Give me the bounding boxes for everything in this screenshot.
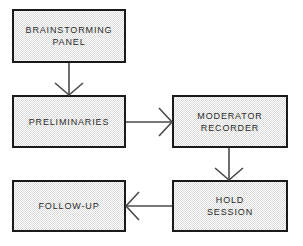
node-moderator-recorder[interactable]: MODERATOR RECORDER bbox=[172, 95, 288, 148]
node-follow-up[interactable]: FOLLOW-UP bbox=[12, 180, 126, 232]
node-preliminaries[interactable]: PRELIMINARIES bbox=[12, 95, 126, 148]
node-preliminaries-label: PRELIMINARIES bbox=[29, 116, 110, 128]
flowchart-canvas: BRAINSTORMING PANEL PRELIMINARIES MODERA… bbox=[0, 0, 303, 246]
node-hold-session-label: HOLD SESSION bbox=[207, 194, 253, 218]
node-moderator-recorder-label: MODERATOR RECORDER bbox=[197, 110, 262, 134]
edge-panel-to-preliminaries-arrow bbox=[55, 63, 83, 95]
edge-hold-session-to-follow-up-arrow bbox=[126, 192, 172, 220]
node-brainstorming-panel-label: BRAINSTORMING PANEL bbox=[26, 24, 113, 48]
node-follow-up-label: FOLLOW-UP bbox=[39, 200, 100, 212]
node-brainstorming-panel[interactable]: BRAINSTORMING PANEL bbox=[12, 9, 126, 63]
edge-preliminaries-to-moderator-arrow bbox=[126, 108, 172, 136]
node-hold-session[interactable]: HOLD SESSION bbox=[172, 180, 288, 232]
edge-moderator-to-hold-session-arrow bbox=[215, 148, 243, 180]
